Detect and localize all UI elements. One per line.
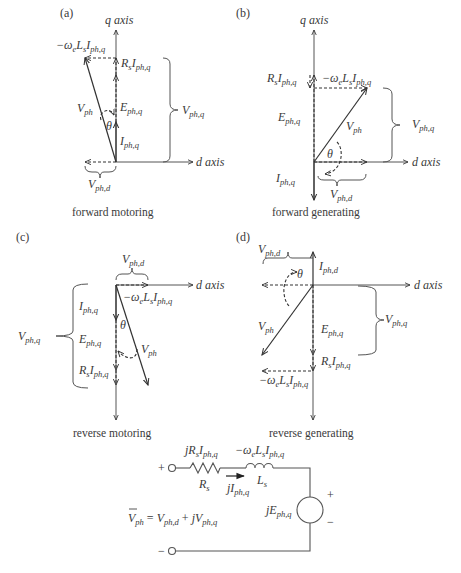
label-theta: θ — [120, 318, 126, 332]
minus-terminal — [169, 548, 176, 555]
d-axis-label: d axis — [412, 155, 441, 169]
label-RsI: RsIph,q — [320, 354, 351, 370]
label-Vph: Vph — [346, 119, 362, 135]
wire — [273, 468, 310, 497]
phasor-diagram-figure: (a) q axis d axis −ωeLsIph,q RsIph,q Eph… — [0, 0, 461, 573]
vphq-brace — [383, 88, 400, 162]
vph-phasor — [262, 285, 313, 355]
label-Vphd: Vph,d — [88, 177, 111, 193]
theta-arc — [118, 349, 137, 358]
label-theta: θ — [327, 147, 333, 161]
label-theta: θ — [106, 119, 112, 133]
resistor-symbol — [190, 463, 220, 473]
panel-d-reverse-generating: (d) d axis Vph,d Iph,d θ Vph Eph,q RsIph… — [236, 230, 443, 440]
label-I: Iph,q — [78, 299, 99, 315]
label-E: Eph,q — [277, 110, 301, 126]
plus-terminal — [169, 465, 176, 472]
label-wLsI: −ωeLsIph,q — [259, 373, 309, 389]
resistor-label: Rs — [198, 477, 210, 493]
label-RsI: RsIph,q — [120, 56, 151, 72]
label-wLsI: −ωeLsIph,q — [56, 38, 106, 54]
label-Vphq: Vph,q — [412, 117, 435, 133]
panel-d-caption: reverse generating — [269, 427, 354, 440]
label-Vphd: Vph,d — [330, 187, 353, 203]
inductor-drop-label: −ωeLsIph,q — [235, 443, 285, 459]
inductor-label: Ls — [256, 473, 268, 489]
panel-a-forward-motoring: (a) q axis d axis −ωeLsIph,q RsIph,q Eph… — [56, 6, 225, 219]
label-wLsI: −ωeLsIph,q — [123, 290, 173, 306]
source-minus-label: − — [327, 515, 334, 529]
source-label: jEph,q — [264, 503, 292, 519]
voltage-source — [297, 497, 323, 523]
minus-terminal-label: − — [158, 544, 165, 558]
label-Vphq: Vph,q — [18, 329, 41, 345]
label-E: Eph,q — [320, 322, 344, 338]
label-Vphq: Vph,q — [385, 312, 408, 328]
plus-terminal-label: + — [158, 461, 165, 475]
panel-a-caption: forward motoring — [72, 206, 154, 219]
label-E: Eph,q — [119, 100, 143, 116]
label-RsI: RsIph,q — [266, 71, 297, 87]
vphd-brace — [116, 268, 148, 280]
panel-b-id: (b) — [236, 6, 250, 20]
vphq-brace — [358, 286, 384, 355]
panel-c-id: (c) — [16, 230, 29, 244]
label-wLsI: −ωeLsIph,q — [322, 71, 372, 87]
panel-b-forward-generating: (b) q axis d axis RsIph,q −ωeLsIph,q Eph… — [236, 6, 441, 219]
vphq-brace — [163, 58, 178, 162]
inductor-symbol — [246, 464, 273, 469]
label-I: Iph,q — [119, 134, 140, 150]
d-axis-label: d axis — [196, 155, 225, 169]
current-label: jIph,q — [225, 481, 250, 497]
panel-b-caption: forward generating — [272, 206, 360, 219]
theta-arc — [284, 272, 297, 306]
label-Vphq: Vph,q — [182, 103, 205, 119]
resistor-drop-label: jRsIph,q — [183, 443, 219, 459]
q-axis-label: q axis — [300, 13, 329, 27]
d-axis-label: d axis — [196, 278, 225, 292]
label-I: Iph,q — [275, 171, 296, 187]
wire — [176, 523, 311, 551]
d-axis-label: d axis — [414, 278, 443, 292]
label-Vphd: Vph,d — [122, 252, 145, 268]
label-RsI: RsIph,q — [78, 363, 109, 379]
panel-d-id: (d) — [236, 230, 250, 244]
label-Vphd: Vph,d — [258, 242, 281, 258]
panel-c-caption: reverse motoring — [73, 427, 151, 440]
vphd-brace — [318, 174, 366, 186]
panel-a-id: (a) — [60, 6, 73, 20]
panel-c-reverse-motoring: (c) d axis Vph,d −ωeLsIph,q Iph,q Eph,q … — [16, 230, 225, 440]
label-Vph: Vph — [258, 319, 274, 335]
label-theta: θ — [297, 267, 303, 281]
label-I: Iph,d — [318, 259, 339, 275]
label-Vph: Vph — [141, 342, 157, 358]
source-plus-label: + — [327, 488, 334, 502]
label-E: Eph,q — [78, 332, 102, 348]
label-Vph: Vph — [77, 101, 93, 117]
q-axis-label: q axis — [105, 13, 134, 27]
equivalent-circuit: + − + − jRsIph,q −ωeLsIph,q Rs Ls jIph,q… — [128, 443, 334, 558]
phasor-equation: Vph = Vph,d + jVph,q — [128, 511, 218, 527]
